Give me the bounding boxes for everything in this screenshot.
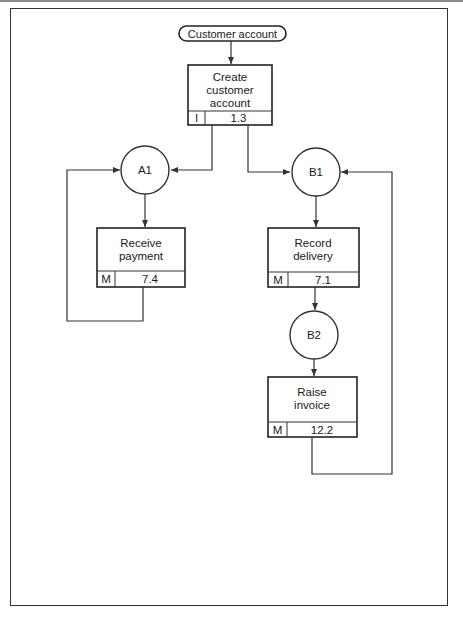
process-number: 7.1 — [315, 274, 331, 286]
arrow-create-to-b1 — [248, 125, 290, 172]
process-type: M — [273, 274, 283, 286]
process-box-create-customer-account: Create customer account I 1.3 — [188, 65, 272, 125]
process-label-line: Raise — [297, 386, 326, 398]
start-node-label: Customer account — [188, 28, 277, 40]
state-circle-a1: A1 — [121, 146, 169, 194]
process-box-record-delivery: Record delivery M 7.1 — [268, 228, 359, 287]
process-label-line: delivery — [293, 250, 333, 262]
state-circle-b2: B2 — [290, 311, 338, 359]
start-node-customer-account: Customer account — [179, 26, 286, 41]
process-box-receive-payment: Receive payment M 7.4 — [97, 228, 185, 287]
process-label-line: Receive — [120, 237, 162, 249]
state-label: A1 — [138, 164, 152, 176]
state-label: B1 — [309, 166, 323, 178]
process-label-line: payment — [119, 250, 164, 262]
process-label-line: Create — [213, 71, 248, 83]
process-number: 12.2 — [311, 424, 333, 436]
process-type: M — [273, 424, 283, 436]
state-circle-b1: B1 — [292, 148, 340, 196]
process-type: I — [195, 112, 198, 124]
state-label: B2 — [307, 329, 321, 341]
process-number: 1.3 — [231, 112, 247, 124]
process-label-line: invoice — [294, 399, 330, 411]
process-box-raise-invoice: Raise invoice M 12.2 — [268, 377, 357, 437]
process-label-line: account — [210, 97, 251, 109]
process-number: 7.4 — [142, 273, 159, 285]
process-type: M — [101, 273, 111, 285]
process-label-line: Record — [294, 237, 331, 249]
entity-life-history-diagram: Customer account Create customer account… — [0, 0, 463, 619]
arrow-create-to-a1 — [171, 125, 212, 170]
process-label-line: customer — [206, 84, 253, 96]
